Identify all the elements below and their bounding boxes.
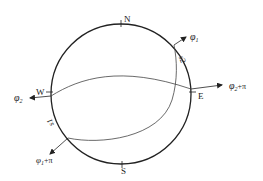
west-label: W	[36, 87, 45, 97]
phi1-arrow	[174, 37, 186, 45]
east-label: E	[198, 91, 204, 101]
s1-label: s1	[45, 118, 56, 128]
phi2-plus-pi-label: φ2+π	[229, 80, 246, 92]
south-label: S	[121, 166, 126, 176]
phi1-plus-pi-label: φ1+π	[36, 155, 53, 166]
phi1-label: φ1	[190, 31, 199, 43]
stereonet-diagram: N S W E s2 s1 φ1 φ1+π φ2 φ2+π	[0, 0, 263, 181]
s2-label: s2	[177, 55, 188, 65]
north-label: N	[124, 14, 131, 24]
great-circle-arc-we	[51, 76, 191, 96]
phi1-plus-pi-arrow	[50, 138, 68, 154]
primitive-circle	[51, 24, 191, 164]
great-circle-arc-phi1	[68, 45, 176, 140]
phi2-plus-pi-arrow	[191, 85, 222, 89]
phi2-label: φ2	[14, 92, 23, 104]
